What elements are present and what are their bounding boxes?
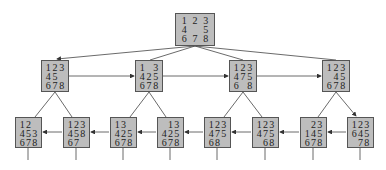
puzzle-state-b1: 13425678 <box>110 117 137 148</box>
puzzle-state-c2: 12347568 <box>252 117 279 148</box>
tile: 7 <box>333 81 340 90</box>
tile: 8 <box>269 138 275 147</box>
tile: 6 <box>139 81 146 90</box>
puzzle-state-c1: 12347568 <box>204 117 231 148</box>
blank-tile <box>221 138 227 147</box>
search-tree-diagram: 1234567812345678134256781234756812345678… <box>0 0 386 170</box>
puzzle-state-a: 12345678 <box>41 60 69 92</box>
tile: 6 <box>326 81 333 90</box>
puzzle-state-d1: 23145678 <box>300 117 327 148</box>
tile: 3 <box>58 63 65 72</box>
tile: 8 <box>58 81 65 90</box>
tile: 6 <box>45 81 52 90</box>
puzzle-state-b2: 13425678 <box>157 117 184 148</box>
puzzle-state-c: 12347568 <box>229 60 257 92</box>
tile: 8 <box>246 81 253 90</box>
tile: 7 <box>146 81 153 90</box>
tile: 6 <box>233 81 240 90</box>
tile: 8 <box>364 138 370 147</box>
puzzle-state-root: 12345678 <box>175 13 215 46</box>
tile: 8 <box>80 129 86 138</box>
puzzle-state-b: 13425678 <box>135 60 163 92</box>
tile: 2 <box>190 16 201 25</box>
tile: 8 <box>174 138 180 147</box>
tile: 7 <box>190 34 201 43</box>
tile: 1 <box>326 63 333 72</box>
tile: 8 <box>127 138 133 147</box>
puzzle-state-d2: 12364578 <box>347 117 374 148</box>
tile: 5 <box>221 129 227 138</box>
tile: 8 <box>200 34 211 43</box>
tile: 7 <box>52 81 59 90</box>
puzzle-state-a2: 12345867 <box>63 117 90 148</box>
tile: 8 <box>152 81 159 90</box>
tile: 8 <box>339 81 346 90</box>
puzzle-state-d: 12345678 <box>322 60 350 92</box>
puzzle-state-a1: 12453678 <box>15 117 42 148</box>
tile: 8 <box>317 138 323 147</box>
blank-tile <box>240 81 247 90</box>
tile: 7 <box>240 72 247 81</box>
tile: 8 <box>32 138 38 147</box>
blank-tile <box>80 138 86 147</box>
tile: 6 <box>179 34 190 43</box>
